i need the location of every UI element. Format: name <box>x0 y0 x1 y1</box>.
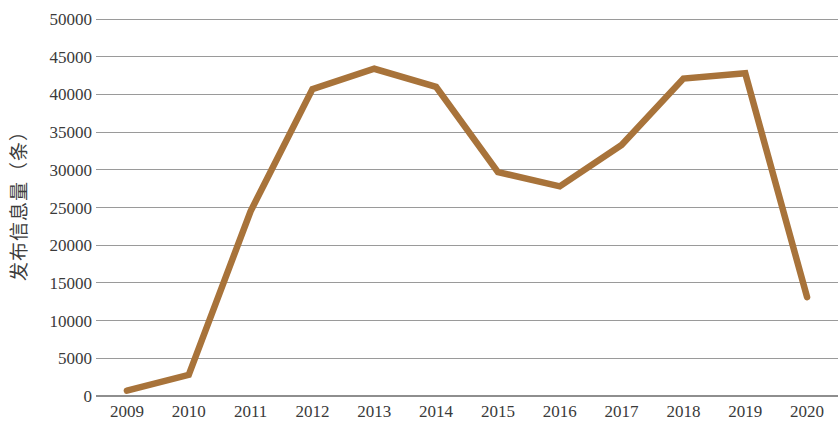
x-axis-tick-label: 2017 <box>605 400 639 424</box>
x-axis-tick-labels: 2009201020112012201320142015201620172018… <box>96 400 838 430</box>
x-axis-tick-label: 2010 <box>172 400 206 424</box>
x-axis-tick-label: 2018 <box>666 400 700 424</box>
plot-area <box>0 0 840 430</box>
x-axis-tick-label: 2015 <box>481 400 515 424</box>
data-line-series <box>127 69 807 391</box>
x-axis-tick-label: 2020 <box>790 400 824 424</box>
x-axis-tick-label: 2019 <box>728 400 762 424</box>
x-axis-tick-label: 2011 <box>234 400 267 424</box>
x-axis-tick-label: 2009 <box>110 400 144 424</box>
x-axis-tick-label: 2012 <box>295 400 329 424</box>
line-chart: 发布信息量（条） 0500010000150002000025000300003… <box>0 0 840 430</box>
x-axis-tick-label: 2016 <box>543 400 577 424</box>
x-axis-tick-label: 2014 <box>419 400 453 424</box>
x-axis-tick-label: 2013 <box>357 400 391 424</box>
data-series-group <box>127 69 807 391</box>
